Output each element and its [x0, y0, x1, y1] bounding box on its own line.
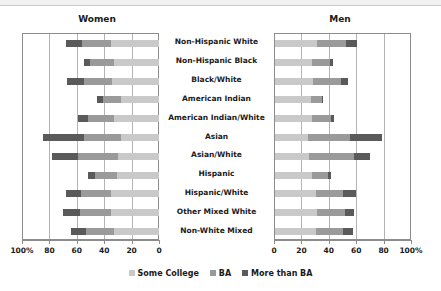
bar-women-4 — [78, 115, 159, 122]
bar-segment-some-college — [275, 78, 313, 85]
bar-segment-some-college — [112, 78, 159, 85]
category-label: Asian/White — [160, 151, 273, 159]
bar-segment-ba — [103, 96, 121, 103]
bar-men-10 — [275, 228, 353, 235]
top-strip — [0, 0, 441, 6]
bar-segment-ba — [88, 115, 114, 122]
bar-segment-ba — [78, 153, 118, 160]
bar-segment-some-college — [275, 153, 309, 160]
category-label: Black/White — [160, 76, 273, 84]
bar-segment-more-than-ba — [343, 190, 355, 197]
bar-segment-some-college — [275, 134, 308, 141]
bar-men-8 — [275, 190, 356, 197]
bar-segment-some-college — [118, 153, 159, 160]
axis-tick-label: 100% — [396, 246, 426, 255]
bar-segment-more-than-ba — [345, 209, 355, 216]
axis-tick-label: 80 — [34, 246, 64, 255]
bar-men-3 — [275, 96, 323, 103]
bar-segment-some-college — [275, 115, 312, 122]
bar-segment-ba — [84, 78, 113, 85]
axis-tick-label: 20 — [286, 246, 316, 255]
legend-item[interactable]: Some College — [129, 269, 199, 278]
bar-segment-more-than-ba — [354, 153, 369, 160]
bar-men-2 — [275, 78, 348, 85]
bar-segment-ba — [313, 78, 340, 85]
bar-segment-some-college — [111, 40, 159, 47]
bar-women-9 — [63, 209, 159, 216]
bar-women-5 — [43, 134, 159, 141]
bar-segment-some-college — [117, 172, 159, 179]
bar-men-7 — [275, 172, 331, 179]
bar-segment-more-than-ba — [331, 115, 334, 122]
bar-segment-some-college — [114, 228, 159, 235]
bar-men-4 — [275, 115, 334, 122]
x-axis-men — [274, 240, 411, 241]
bar-segment-ba — [84, 134, 121, 141]
category-label: Non-Hispanic White — [160, 38, 273, 46]
axis-tick — [77, 240, 78, 244]
bar-segment-ba — [86, 228, 113, 235]
bar-segment-more-than-ba — [88, 172, 95, 179]
axis-tick-label: 0 — [144, 246, 174, 255]
axis-tick — [22, 240, 23, 244]
axis-tick — [132, 240, 133, 244]
bar-segment-some-college — [275, 190, 316, 197]
bar-segment-more-than-ba — [341, 78, 348, 85]
bar-segment-more-than-ba — [346, 40, 357, 47]
axis-tick-label: 0 — [259, 246, 289, 255]
bar-segment-more-than-ba — [66, 40, 82, 47]
bar-segment-ba — [82, 40, 111, 47]
axis-tick-label: 60 — [341, 246, 371, 255]
panel-title-men: Men — [300, 14, 380, 24]
bar-segment-more-than-ba — [67, 78, 83, 85]
legend-item[interactable]: BA — [210, 269, 231, 278]
axis-tick — [356, 240, 357, 244]
bar-segment-ba — [316, 190, 343, 197]
axis-tick-label: 40 — [89, 246, 119, 255]
bar-segment-more-than-ba — [63, 209, 79, 216]
bar-segment-ba — [312, 59, 330, 66]
bar-segment-more-than-ba — [52, 153, 78, 160]
bar-segment-ba — [317, 209, 344, 216]
axis-tick — [411, 240, 412, 244]
bar-segment-some-college — [275, 209, 317, 216]
legend-item[interactable]: More than BA — [242, 269, 312, 278]
bar-men-9 — [275, 209, 354, 216]
axis-tick — [274, 240, 275, 244]
bar-segment-some-college — [275, 40, 317, 47]
axis-tick — [49, 240, 50, 244]
bar-segment-ba — [317, 40, 346, 47]
chart-legend: Some CollegeBAMore than BA — [0, 266, 441, 280]
axis-tick-label: 60 — [62, 246, 92, 255]
axis-tick — [301, 240, 302, 244]
bar-segment-more-than-ba — [343, 228, 353, 235]
bar-segment-more-than-ba — [330, 59, 333, 66]
category-label: Hispanic — [160, 170, 273, 178]
axis-tick-label: 20 — [117, 246, 147, 255]
bar-segment-some-college — [111, 190, 159, 197]
bar-segment-ba — [95, 172, 117, 179]
bar-women-3 — [97, 96, 159, 103]
bar-segment-ba — [312, 115, 331, 122]
chart-panel-women — [22, 33, 159, 240]
bar-segment-ba — [81, 190, 111, 197]
bar-women-8 — [66, 190, 159, 197]
bar-segment-more-than-ba — [328, 172, 331, 179]
bar-segment-some-college — [114, 115, 159, 122]
bar-segment-some-college — [275, 228, 316, 235]
category-label: Hispanic/White — [160, 189, 273, 197]
axis-tick — [384, 240, 385, 244]
bar-segment-more-than-ba — [66, 190, 81, 197]
bar-segment-more-than-ba — [350, 134, 382, 141]
axis-tick — [104, 240, 105, 244]
bar-segment-some-college — [275, 96, 311, 103]
bar-segment-more-than-ba — [322, 96, 323, 103]
chart-panel-men — [274, 33, 411, 240]
bar-segment-some-college — [121, 134, 159, 141]
axis-tick-label: 80 — [369, 246, 399, 255]
legend-label: More than BA — [251, 269, 312, 278]
bar-men-5 — [275, 134, 382, 141]
bar-segment-ba — [309, 153, 354, 160]
bar-segment-more-than-ba — [71, 228, 86, 235]
axis-tick — [329, 240, 330, 244]
